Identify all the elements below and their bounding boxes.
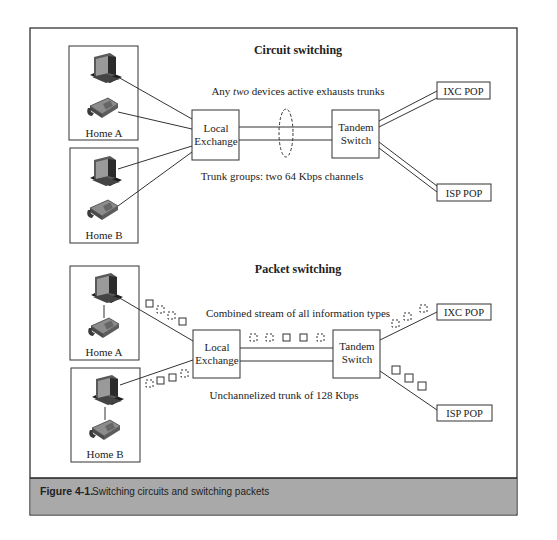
circuit-home-b-label: Home B [86,229,123,241]
circuit-local-exchange-label-2: Exchange [194,135,237,147]
figure-label: Figure 4-1. [40,485,93,497]
figure-caption: Switching circuits and switching packets [92,486,269,497]
circuit-tandem-label-2: Switch [341,134,372,146]
packet-local-exchange-label-2: Exchange [195,354,238,366]
circuit-ixc-pop-label: IXC POP [444,86,484,97]
packet-ixc-pop-label: IXC POP [444,307,484,318]
packet-note-bottom: Unchannelized trunk of 128 Kbps [209,389,358,401]
diagram-canvas: Circuit switching Home A Home B Local Ex… [0,0,557,540]
circuit-isp-pop-label: ISP POP [446,188,483,199]
packet-title: Packet switching [255,262,341,276]
circuit-home-a-label: Home A [86,127,123,139]
circuit-note-bottom: Trunk groups: two 64 Kbps channels [201,170,363,182]
packet-tandem-label-1: Tandem [339,340,375,352]
packet-local-exchange-label-1: Local [204,341,229,353]
circuit-tandem-label-1: Tandem [338,121,374,133]
packet-isp-pop-label: ISP POP [446,408,483,419]
circuit-title: Circuit switching [254,43,342,57]
circuit-note-top: Any two devices active exhausts trunks [211,85,384,97]
packet-tandem-label-2: Switch [342,353,373,365]
circuit-local-exchange-label-1: Local [203,122,228,134]
packet-home-a-label: Home A [86,346,123,358]
packet-note-top: Combined stream of all information types [206,307,390,319]
packet-home-b-label: Home B [87,448,124,460]
